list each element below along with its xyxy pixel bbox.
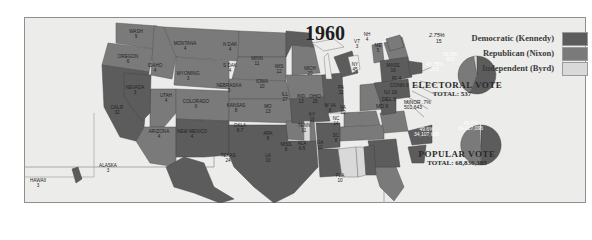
callout-md: MD 9 [376, 104, 388, 109]
state-label-kansas: KANSAS8 [227, 103, 246, 113]
state-label-hawaii: HAWAII3 [30, 178, 46, 188]
state-fla [374, 167, 404, 201]
state-label-vt: VT3 [354, 39, 360, 49]
state-label-ohio: OHIO25 [309, 94, 321, 104]
popular-caption: POPULAR VOTE TOTAL: 68,836,385 [410, 149, 504, 167]
state-label-newmexico: NEW MEXICO4 [177, 129, 207, 139]
state-ky [344, 111, 380, 127]
callout-ri: RI 4 [392, 76, 401, 81]
electoral-title: ELECTORAL VOTE [412, 80, 492, 90]
state-label-mass: MASS16 [386, 63, 399, 73]
state-label-wyoming: WYOMING3 [177, 71, 200, 81]
legend-item-democratic: Democratic (Kennedy) [478, 32, 588, 46]
state-tenn [340, 125, 384, 141]
state-label-ny: NY45 [352, 62, 358, 72]
state-label-tenn: TENN11 [298, 123, 311, 133]
map-title: 1960 [305, 22, 345, 45]
popular-title: POPULAR VOTE [410, 149, 504, 159]
popular-total: TOTAL: 68,836,385 [410, 159, 504, 167]
state-label-wva: W VA8 [324, 103, 335, 113]
electoral-caption: ELECTORAL VOTE TOTAL: 537 [412, 80, 492, 98]
state-label-va: VA12 [340, 105, 346, 115]
state-label-nh: NH4 [364, 32, 371, 42]
state-label-utah: UTAH4 [160, 93, 172, 103]
popular-minor-label: MINOR .7%501,643 [404, 100, 431, 110]
state-label-calif: CALIF32 [110, 105, 123, 115]
state-label-ind: IND13 [297, 94, 305, 104]
state-label-wash: WASH9 [129, 29, 143, 39]
state-label-oregon: OREGON6 [118, 54, 138, 64]
legend-swatch-independent [562, 62, 588, 76]
state-label-pa: PA32 [338, 85, 344, 95]
state-label-alaska: ALASKA3 [99, 163, 117, 173]
state-label-ky: KY10 [309, 112, 315, 122]
state-label-iowa: IOWA10 [256, 79, 268, 89]
state-label-nebraska: NEBRASKA6 [216, 83, 241, 93]
state-label-sdak: S DAK4 [223, 63, 237, 73]
state-label-wis: WIS12 [275, 64, 284, 74]
state-label-okla: OKLA8-7 [234, 123, 246, 133]
popular-rep-label: 49.6%34,107,646 [414, 127, 439, 137]
state-label-colorado: COLORADO6 [183, 99, 209, 109]
state-ndak [238, 31, 286, 57]
legend-swatch-republican [562, 47, 588, 61]
electoral-dem-label: 56.5%303 [443, 52, 457, 62]
callout-del: DEL 3 [382, 97, 396, 102]
state-label-texas: TEXAS24 [220, 153, 235, 163]
state-label-mo: MO13 [264, 104, 271, 114]
legend-swatch-democratic [562, 32, 588, 46]
state-label-nc: NC14 [333, 116, 340, 126]
state-label-idaho: IDAHO4 [148, 63, 163, 73]
state-label-nevada: NEVADA3 [126, 85, 145, 95]
popular-dem-label: 49.7%34,227,096 [458, 121, 483, 131]
state-label-fla: FLA10 [336, 173, 344, 183]
legend-item-independent: Independent (Byrd) [478, 62, 588, 76]
state-label-miss: MISS8 [280, 142, 291, 152]
electoral-total: TOTAL: 537 [412, 90, 492, 98]
state-ala [364, 145, 376, 175]
electoral-ind-votes: 15 [436, 39, 442, 44]
state-label-me: ME5 [375, 43, 382, 53]
state-label-sc: SC8 [333, 133, 339, 143]
state-label-ala: ALA6-5 [298, 141, 307, 151]
state-label-la: LA10 [265, 153, 271, 163]
callout-conn: CONN 8 [390, 83, 409, 88]
state-label-minn: MINN11 [251, 56, 263, 66]
callout-nj: NJ 16 [384, 90, 397, 95]
state-alaska [166, 157, 234, 203]
state-label-ill: ILL27 [282, 92, 288, 102]
state-label-ark: ARK8 [263, 131, 272, 141]
state-label-ndak: N DAK4 [223, 42, 237, 52]
state-mass [408, 61, 422, 75]
state-label-arizona: ARIZONA4 [149, 129, 169, 139]
state-hawaii [72, 167, 82, 183]
state-label-montana: MONTANA4 [174, 41, 197, 51]
state-label-ga: GA12 [317, 140, 324, 150]
electoral-rep-label: 40.75%219 [426, 62, 443, 72]
state-label-mich: MICH20 [304, 66, 316, 76]
legend-item-republican: Republican (Nixon) [478, 47, 588, 61]
